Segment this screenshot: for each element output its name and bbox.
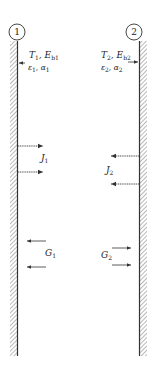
surface-2-emissivity-absorptivity-label: ε2, α2 — [101, 64, 123, 73]
surface-1-temp-emissive-label: T1, Eb1 — [29, 51, 59, 61]
irradiation-g1-arrows — [27, 241, 46, 267]
surface-2-number: 2 — [127, 25, 141, 39]
irradiation-g2-label: G2 — [101, 251, 112, 261]
radiosity-j1-label: J1 — [41, 154, 48, 164]
surface-2-wall — [140, 41, 148, 356]
surface-1-emissivity-absorptivity-label: ε1, α1 — [28, 64, 50, 73]
surface-1-number: 1 — [10, 25, 24, 39]
radiosity-j2-arrows — [111, 156, 139, 184]
radiosity-j2-label: J2 — [106, 166, 113, 176]
radiosity-j1-arrows — [18, 146, 43, 172]
surface-2-temp-emissive-label: T2, Eb2 — [101, 51, 131, 61]
irradiation-g1-label: G1 — [45, 249, 56, 259]
irradiation-g2-arrows — [112, 248, 131, 265]
surface-1-wall — [10, 41, 18, 356]
